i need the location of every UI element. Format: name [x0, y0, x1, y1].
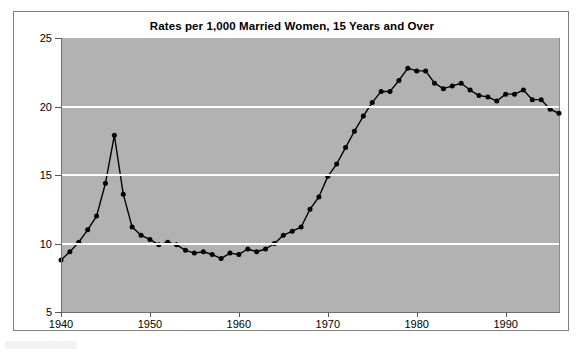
data-point: [352, 129, 357, 134]
x-tick-mark: [61, 312, 62, 317]
x-tick-mark: [150, 312, 151, 317]
x-axis-line: [61, 312, 560, 313]
data-point: [308, 207, 313, 212]
data-point: [103, 181, 108, 186]
data-point: [432, 81, 437, 86]
data-point: [192, 251, 197, 256]
x-tick-mark: [239, 312, 240, 317]
x-tick-mark: [506, 312, 507, 317]
data-point: [388, 89, 393, 94]
data-point: [94, 214, 99, 219]
x-tick-mark: [328, 312, 329, 317]
data-point: [281, 233, 286, 238]
data-point: [67, 249, 72, 254]
data-point: [396, 78, 401, 83]
y-tick-label: 5: [26, 306, 52, 318]
y-tick-label: 20: [26, 101, 52, 113]
data-point: [147, 237, 152, 242]
data-point: [139, 233, 144, 238]
data-point: [512, 92, 517, 97]
data-point: [334, 162, 339, 167]
data-point: [236, 252, 241, 257]
x-tick-label: 1990: [493, 318, 517, 330]
data-point: [379, 89, 384, 94]
x-tick-label: 1940: [49, 318, 73, 330]
data-point: [121, 192, 126, 197]
data-point: [343, 145, 348, 150]
y-tick-label: 25: [26, 32, 52, 44]
y-tick-label: 15: [26, 169, 52, 181]
data-point: [521, 88, 526, 93]
data-point: [476, 93, 481, 98]
data-point: [201, 249, 206, 254]
data-point: [539, 97, 544, 102]
data-point: [290, 229, 295, 234]
x-tick-label: 1950: [138, 318, 162, 330]
data-point: [183, 248, 188, 253]
x-tick-label: 1980: [404, 318, 428, 330]
gridline: [61, 243, 559, 245]
data-point: [361, 114, 366, 119]
y-axis-line: [61, 38, 62, 312]
data-point: [557, 111, 562, 116]
data-point: [210, 252, 215, 257]
data-point: [423, 68, 428, 73]
data-point: [227, 251, 232, 256]
chart-title: Rates per 1,000 Married Women, 15 Years …: [14, 20, 570, 32]
data-point: [405, 66, 410, 71]
y-tick-mark: [55, 38, 61, 39]
data-point: [112, 133, 117, 138]
data-point: [219, 256, 224, 261]
series-line: [61, 68, 559, 260]
data-point: [503, 92, 508, 97]
data-point: [263, 246, 268, 251]
y-tick-mark: [55, 107, 61, 108]
data-point: [450, 83, 455, 88]
data-point: [370, 100, 375, 105]
x-tick-label: 1970: [316, 318, 340, 330]
data-point: [468, 88, 473, 93]
y-tick-label: 10: [26, 238, 52, 250]
data-point: [494, 99, 499, 104]
footer-artifact: [5, 341, 77, 349]
data-point: [414, 68, 419, 73]
gridline: [61, 106, 559, 108]
plot-area: [61, 38, 560, 312]
data-point: [441, 86, 446, 91]
x-tick-mark: [417, 312, 418, 317]
data-point: [299, 225, 304, 230]
data-point: [530, 97, 535, 102]
data-point: [485, 94, 490, 99]
chart-figure: Rates per 1,000 Married Women, 15 Years …: [13, 11, 569, 331]
data-point: [245, 246, 250, 251]
data-point: [85, 227, 90, 232]
data-point: [459, 81, 464, 86]
data-point: [254, 249, 259, 254]
data-point: [130, 225, 135, 230]
x-tick-label: 1960: [227, 318, 251, 330]
y-tick-mark: [55, 175, 61, 176]
gridline: [61, 174, 559, 176]
data-point: [316, 194, 321, 199]
y-tick-mark: [55, 244, 61, 245]
